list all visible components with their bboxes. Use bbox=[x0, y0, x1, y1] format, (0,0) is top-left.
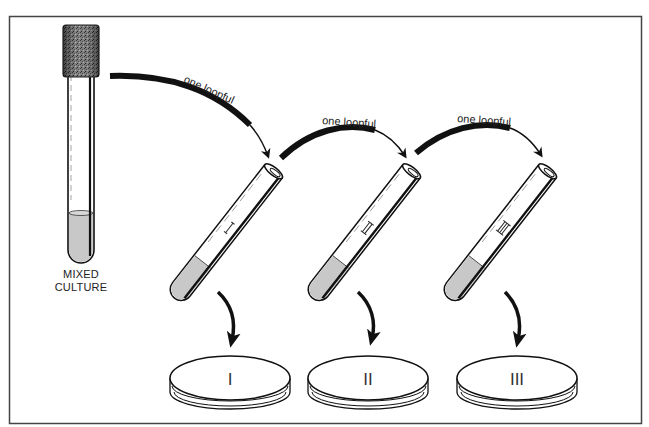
transfer-arrow-2 bbox=[281, 127, 405, 158]
plate-1-label: I bbox=[228, 370, 233, 389]
tube-2 bbox=[304, 161, 423, 305]
diagram-canvas: I II III one loopful one loopful one loo… bbox=[0, 0, 649, 427]
pour-arrow-2 bbox=[358, 292, 373, 338]
mixed-culture-label-line2: CULTURE bbox=[46, 281, 116, 294]
mixed-culture-tube bbox=[63, 25, 99, 263]
plate-2-label: II bbox=[363, 370, 372, 389]
tube-3 bbox=[440, 161, 559, 305]
pour-arrow-1 bbox=[218, 292, 233, 340]
mixed-culture-label: MIXED CULTURE bbox=[46, 268, 116, 294]
plate-3-label: III bbox=[510, 370, 524, 389]
tube-1 bbox=[166, 161, 285, 305]
mixed-culture-label-line1: MIXED bbox=[46, 268, 116, 281]
pour-arrow-3 bbox=[505, 292, 519, 340]
transfer-arrow-1 bbox=[110, 76, 268, 156]
transfer-arrow-3 bbox=[416, 125, 541, 155]
